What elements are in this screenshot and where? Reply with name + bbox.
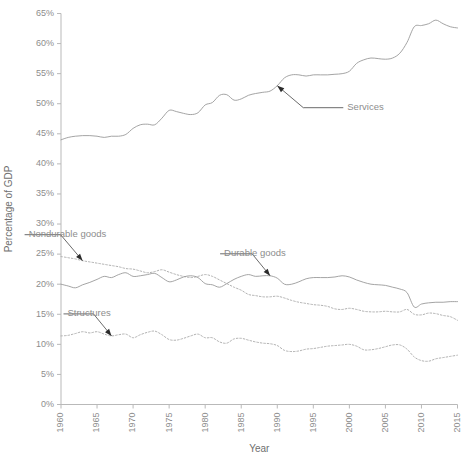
x-tick-label: 2005 — [380, 413, 390, 433]
x-tick-label: 1970 — [127, 413, 137, 433]
y-tick-label: 40% — [36, 158, 54, 168]
series-line-services — [61, 20, 458, 140]
chart-container: 0%5%10%15%20%25%30%35%40%45%50%55%60%65%… — [0, 0, 474, 459]
x-tick-label: 2010 — [416, 413, 426, 433]
y-tick-label: 5% — [41, 369, 54, 379]
x-tick-label: 2015 — [452, 413, 462, 433]
x-tick-label: 1965 — [91, 413, 101, 433]
annotation-group: ServicesNondurable goodsDurable goodsStr… — [25, 84, 384, 338]
y-axis-title: Percentage of GDP — [3, 165, 14, 252]
series-line-structures — [61, 331, 458, 361]
x-tick-label: 2000 — [344, 413, 354, 433]
y-tick-label: 20% — [36, 279, 54, 289]
x-axis-title: Year — [249, 443, 270, 454]
y-axis-ticks: 0%5%10%15%20%25%30%35%40%45%50%55%60%65% — [36, 8, 61, 409]
annotation-label-durable-goods: Durable goods — [224, 247, 286, 258]
y-tick-label: 55% — [36, 68, 54, 78]
x-axis-ticks: 1960196519701975198019851990199520002005… — [55, 405, 462, 433]
y-tick-label: 30% — [36, 218, 54, 228]
y-tick-label: 50% — [36, 98, 54, 108]
x-tick-label: 1980 — [200, 413, 210, 433]
series-line-durable-goods — [61, 273, 458, 308]
y-tick-label: 15% — [36, 309, 54, 319]
y-tick-label: 45% — [36, 128, 54, 138]
series-group — [61, 20, 458, 361]
y-tick-label: 35% — [36, 188, 54, 198]
x-tick-label: 1975 — [164, 413, 174, 433]
x-tick-label: 1985 — [236, 413, 246, 433]
y-tick-label: 10% — [36, 339, 54, 349]
line-chart-svg: 0%5%10%15%20%25%30%35%40%45%50%55%60%65%… — [0, 0, 474, 459]
annotation-label-structures: Structures — [67, 307, 111, 318]
y-tick-label: 0% — [41, 399, 54, 409]
annotation-leader — [277, 86, 343, 108]
x-tick-label: 1990 — [272, 413, 282, 433]
y-tick-label: 25% — [36, 248, 54, 258]
annotation-label-nondurable-goods: Nondurable goods — [29, 228, 107, 239]
annotation-label-services: Services — [347, 101, 384, 112]
y-tick-label: 60% — [36, 38, 54, 48]
x-tick-label: 1995 — [308, 413, 318, 433]
y-tick-label: 65% — [36, 8, 54, 18]
x-tick-label: 1960 — [55, 413, 65, 433]
